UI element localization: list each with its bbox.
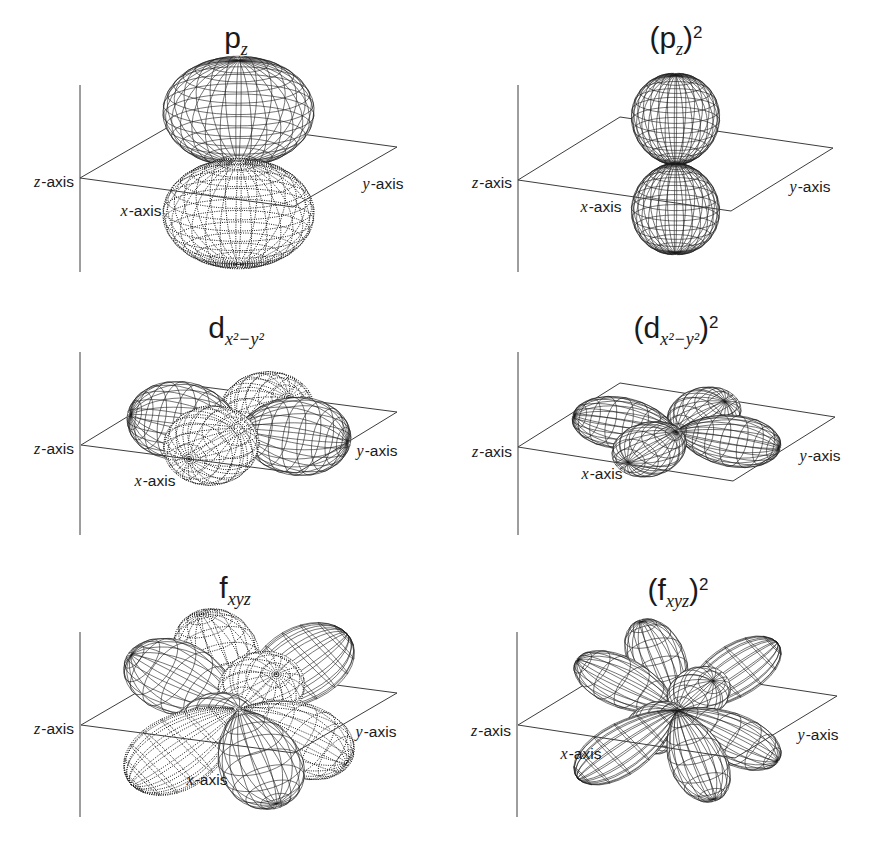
axis-word: -axis	[479, 174, 512, 191]
title-subscript: z	[676, 39, 683, 59]
panel-title: pz	[224, 21, 248, 55]
axis-variable: y	[356, 723, 364, 740]
axis-word: -axis	[478, 722, 511, 739]
axis-word: -axis	[41, 720, 74, 737]
title-subscript: x²−y²	[660, 329, 699, 349]
title-exponent: 2	[699, 575, 708, 594]
panel-title: dx²−y²	[208, 311, 264, 345]
y-axis-label: y-axis	[798, 726, 839, 744]
title-paren-close: )	[689, 573, 699, 606]
title-exponent: 2	[709, 313, 718, 332]
axis-word: -axis	[371, 175, 404, 192]
orbital-figure: pz z-axis x-axis y-axis (pz)2 z-axis x-a…	[0, 0, 871, 845]
z-axis-label: z-axis	[472, 174, 512, 192]
axis-variable: y	[798, 726, 806, 743]
z-axis-label: z-axis	[34, 173, 74, 191]
panel-plot-fxyz-squared	[517, 619, 837, 817]
axis-variable: y	[363, 175, 371, 192]
title-paren-close: )	[683, 21, 693, 54]
axis-word: -axis	[589, 198, 622, 215]
axis-word: -axis	[590, 465, 623, 482]
axis-word: -axis	[479, 443, 512, 460]
axis-variable: x	[582, 465, 590, 482]
title-subscript: xyz	[228, 589, 251, 609]
title-letter: d	[643, 311, 660, 344]
panel-plot-dx2-y2	[80, 352, 397, 535]
x-axis-label: x-axis	[121, 202, 162, 220]
orbital-lobe	[163, 56, 314, 167]
panel-plot-dx2-y2-squared	[518, 352, 835, 535]
title-subscript: xyz	[666, 591, 689, 611]
axis-word: -axis	[364, 723, 397, 740]
axis-word: -axis	[41, 440, 74, 457]
panel-plot-pz-squared	[518, 73, 833, 272]
y-axis-label: y-axis	[357, 442, 398, 460]
y-axis-label: y-axis	[363, 175, 404, 193]
title-exponent: 2	[693, 23, 702, 42]
orbital-lobe	[163, 406, 259, 486]
axis-variable: y	[800, 447, 808, 464]
axis-variable: y	[357, 442, 365, 459]
z-axis-label: z-axis	[34, 440, 74, 458]
axis-word: -axis	[195, 771, 228, 788]
axis-variable: x	[121, 202, 129, 219]
title-letter: d	[208, 311, 225, 344]
x-axis-label: x-axis	[582, 465, 623, 483]
title-letter: p	[659, 21, 676, 54]
axis-variable: x	[187, 771, 195, 788]
orbital-lobe	[631, 73, 719, 165]
axis-word: -axis	[808, 447, 841, 464]
panel-plot-fxyz	[80, 608, 397, 817]
title-paren-open: (	[649, 21, 659, 54]
axis-variable: x	[561, 745, 569, 762]
z-axis-label: z-axis	[34, 720, 74, 738]
axis-word: -axis	[41, 173, 74, 190]
axis-word: -axis	[798, 178, 831, 195]
axis-word: -axis	[143, 472, 176, 489]
x-axis-label: x-axis	[187, 771, 228, 789]
axis-variable: x	[135, 472, 143, 489]
orbital-lobe	[163, 158, 314, 268]
axis-variable: y	[790, 178, 798, 195]
axis-word: -axis	[129, 202, 162, 219]
orbital-lobe	[631, 163, 719, 255]
x-axis-label: x-axis	[581, 198, 622, 216]
panel-title: fxyz	[219, 571, 250, 605]
z-axis-label: z-axis	[471, 722, 511, 740]
title-paren-open: (	[648, 573, 658, 606]
panel-title: (pz)2	[649, 21, 702, 55]
y-axis-label: y-axis	[790, 178, 831, 196]
title-paren-close: )	[699, 311, 709, 344]
title-subscript: x²−y²	[225, 329, 264, 349]
panel-title: (dx²−y²)2	[633, 311, 718, 345]
axis-word: -axis	[365, 442, 398, 459]
axis-variable: x	[581, 198, 589, 215]
title-letter: p	[224, 21, 241, 54]
y-axis-label: y-axis	[356, 723, 397, 741]
axis-word: -axis	[569, 745, 602, 762]
x-axis-label: x-axis	[561, 745, 602, 763]
panel-title: (fxyz)2	[648, 573, 709, 607]
z-axis-label: z-axis	[472, 443, 512, 461]
orbital-lobe	[677, 415, 781, 468]
y-axis-label: y-axis	[800, 447, 841, 465]
panel-plot-pz	[80, 56, 397, 272]
axis-word: -axis	[806, 726, 839, 743]
orbital-figure-canvas	[0, 0, 871, 845]
x-axis-label: x-axis	[135, 472, 176, 490]
title-paren-open: (	[633, 311, 643, 344]
title-subscript: z	[241, 39, 248, 59]
